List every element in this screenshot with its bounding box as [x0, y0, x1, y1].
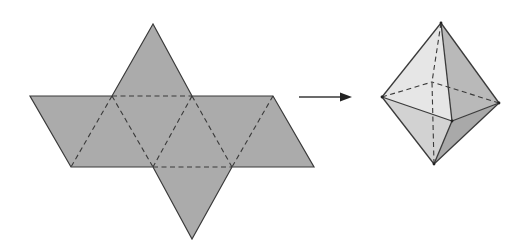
octahedron-solid	[381, 22, 501, 166]
octahedron-net	[30, 24, 314, 239]
vertex-dot	[498, 102, 501, 105]
net-outline	[30, 24, 314, 239]
arrow	[299, 93, 352, 102]
vertex-dot	[451, 120, 454, 123]
octahedron-net-diagram	[0, 0, 524, 248]
vertex-dot	[433, 163, 436, 166]
arrow-head-icon	[340, 93, 352, 102]
vertex-dot	[440, 22, 443, 25]
vertex-dot	[381, 96, 384, 99]
